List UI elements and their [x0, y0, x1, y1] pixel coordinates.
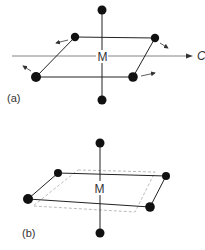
- panel-a-label: (a): [7, 92, 20, 104]
- axial-atom-top: [96, 139, 105, 148]
- axial-atom-bottom: [98, 96, 107, 105]
- eq-edge-left: [28, 173, 58, 199]
- eq-edge-top: [58, 173, 166, 176]
- axial-atom-bottom: [96, 229, 105, 238]
- eq-atom-top-left: [71, 33, 79, 41]
- c-axis-arrowhead-icon: [186, 54, 193, 59]
- eq-atom-top-right: [151, 34, 159, 42]
- panel-a: C M (a): [7, 6, 205, 105]
- eq-edge-top: [75, 37, 155, 38]
- eq-atom-bottom-left: [23, 194, 33, 204]
- eq-edge-right: [150, 176, 166, 207]
- panel-b-label: (b): [22, 227, 35, 239]
- eq-atom-top-left: [54, 169, 62, 177]
- eq-atom-bottom-right: [145, 202, 155, 212]
- eq-edge-left: [36, 37, 75, 77]
- rotation-arrow-icon: [56, 40, 68, 43]
- metal-center-label: M: [95, 182, 105, 196]
- panel-b: M (b): [22, 139, 170, 240]
- diagram-canvas: C M (a): [0, 0, 205, 250]
- eq-edge-right: [133, 38, 155, 77]
- rotation-arrow-icon: [23, 66, 31, 71]
- c-axis-label: C: [197, 49, 205, 63]
- axial-atom-top: [98, 6, 107, 15]
- eq-atom-bottom-right: [128, 72, 138, 82]
- eq-atom-top-right: [162, 172, 170, 180]
- rotation-arrow-icon: [141, 73, 155, 76]
- rotation-arrow-icon: [160, 43, 168, 48]
- metal-center-label: M: [98, 50, 108, 64]
- eq-atom-bottom-left: [31, 72, 41, 82]
- eq-edge-bottom: [28, 199, 150, 207]
